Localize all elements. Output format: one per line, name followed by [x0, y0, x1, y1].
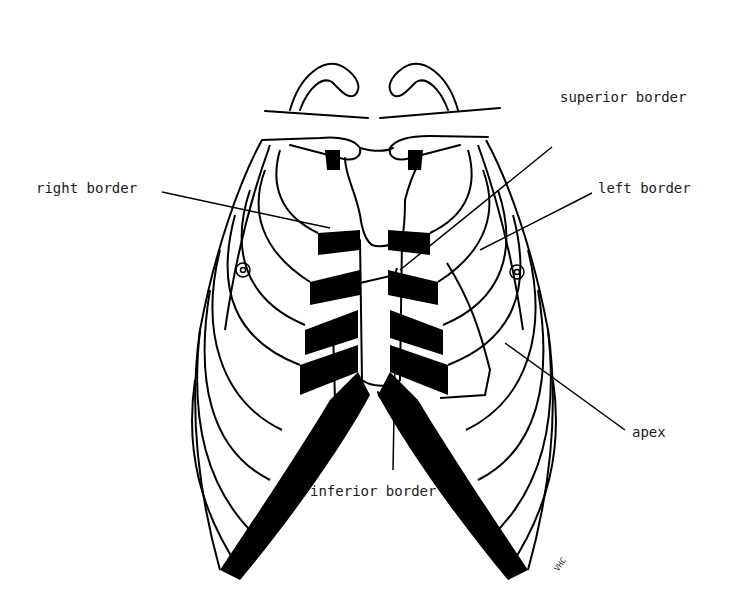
label-right-border: right border [36, 180, 137, 196]
left-first-rib-hook [390, 64, 458, 110]
apex-pointer [505, 343, 625, 430]
right-first-rib-hook [290, 64, 358, 110]
rib-cage-diagram: superior border right border left border… [0, 0, 748, 607]
label-apex: apex [632, 424, 666, 440]
label-inferior-border: inferior border [310, 483, 436, 499]
label-left-border: left border [598, 180, 691, 196]
label-superior-border: superior border [560, 89, 686, 105]
